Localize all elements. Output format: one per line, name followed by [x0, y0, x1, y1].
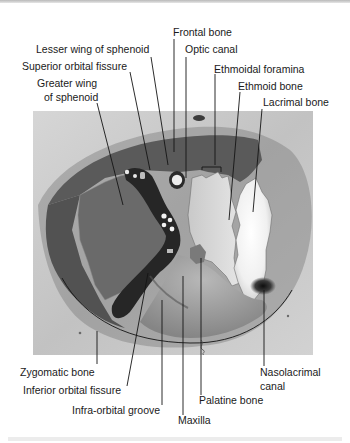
orbit-illustration [33, 111, 313, 355]
label-lesser-wing-of-sphenoid: Lesser wing of sphenoid [36, 43, 149, 55]
orbit-diagram: Frontal bone Lesser wing of sphenoid Opt… [0, 0, 350, 443]
label-ethmoidal-foramina: Ethmoidal foramina [214, 63, 305, 75]
label-greater-wing-line2: of sphenoid [44, 91, 98, 103]
label-ethmoid-bone: Ethmoid bone [238, 80, 303, 92]
foramen-dot [168, 218, 173, 223]
foramen-dot [125, 170, 129, 174]
speck [79, 332, 82, 335]
label-palatine-bone: Palatine bone [199, 394, 263, 406]
foramen-dot [167, 249, 173, 253]
supraorbital-notch [193, 115, 205, 121]
label-nasolacrimal-line1: Nasolacrimal [260, 366, 321, 378]
label-zygomatic-bone: Zygomatic bone [20, 366, 95, 378]
label-inferior-orbital-fissure: Inferior orbital fissure [23, 384, 121, 396]
label-nasolacrimal-line2: canal [260, 380, 285, 392]
label-infra-orbital-groove: Infra-orbital groove [72, 404, 160, 416]
bottom-border [8, 437, 342, 441]
top-labels: Frontal bone Lesser wing of sphenoid Opt… [22, 26, 329, 108]
optic-canal-opening [172, 175, 182, 185]
speck [287, 315, 289, 317]
label-greater-wing-line1: Greater wing [37, 77, 97, 89]
label-lacrimal-bone: Lacrimal bone [263, 96, 329, 108]
foramen-dot [133, 174, 137, 178]
foramen-dot [161, 213, 166, 218]
foramen-dot [170, 227, 175, 232]
label-frontal-bone: Frontal bone [173, 26, 232, 38]
foramen-dot [162, 223, 167, 228]
label-optic-canal: Optic canal [185, 43, 238, 55]
foramen-dot [140, 172, 145, 179]
nasolacrimal-canal-opening [250, 277, 276, 295]
label-maxilla: Maxilla [178, 414, 211, 426]
bottom-labels: Zygomatic bone Inferior orbital fissure … [20, 366, 321, 426]
label-superior-orbital-fissure: Superior orbital fissure [22, 60, 127, 72]
